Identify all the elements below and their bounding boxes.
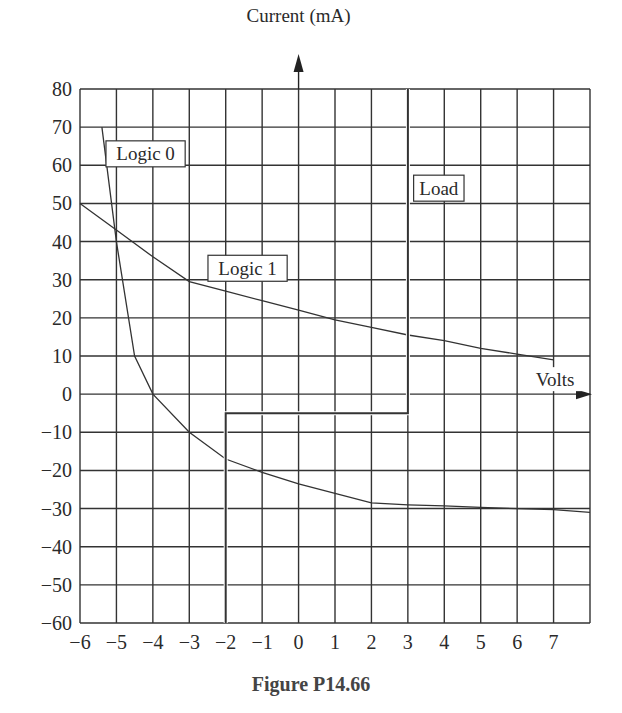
series-logic-1 bbox=[80, 203, 554, 359]
y-tick-label: 0 bbox=[62, 383, 72, 405]
x-tick-label: −6 bbox=[69, 631, 90, 653]
grid bbox=[80, 89, 590, 623]
y-tick-label: 20 bbox=[52, 307, 72, 329]
x-tick-label: 6 bbox=[512, 631, 522, 653]
x-tick-label: 5 bbox=[476, 631, 486, 653]
x-tick-label: −5 bbox=[106, 631, 127, 653]
x-tick-label: 4 bbox=[439, 631, 449, 653]
y-tick-label: −50 bbox=[41, 574, 72, 596]
y-tick-label: 40 bbox=[52, 231, 72, 253]
x-tick-label: 3 bbox=[403, 631, 413, 653]
y-tick-label: −40 bbox=[41, 536, 72, 558]
series-label-load: Load bbox=[419, 178, 459, 199]
x-tick-label: −1 bbox=[252, 631, 273, 653]
chart: Current (mA)Volts Logic 0Logic 1Load 807… bbox=[0, 0, 622, 670]
x-tick-label: 7 bbox=[549, 631, 559, 653]
y-tick-label: 80 bbox=[52, 78, 72, 100]
x-tick-label: 0 bbox=[294, 631, 304, 653]
y-tick-label: 30 bbox=[52, 269, 72, 291]
x-tick-label: −3 bbox=[179, 631, 200, 653]
x-axis-title: Volts bbox=[536, 369, 575, 390]
x-tick-label: −2 bbox=[215, 631, 236, 653]
y-tick-label: 50 bbox=[52, 192, 72, 214]
y-tick-label: 10 bbox=[52, 345, 72, 367]
figure-caption: Figure P14.66 bbox=[0, 673, 622, 696]
x-tick-label: 1 bbox=[330, 631, 340, 653]
y-axis-title: Current (mA) bbox=[247, 5, 351, 27]
y-tick-label: −20 bbox=[41, 459, 72, 481]
y-axis-arrow-icon bbox=[294, 54, 304, 72]
y-tick-label: −10 bbox=[41, 421, 72, 443]
y-tick-label: −60 bbox=[41, 612, 72, 634]
x-tick-label: −4 bbox=[142, 631, 163, 653]
x-tick-label: 2 bbox=[366, 631, 376, 653]
series-labels: Logic 0Logic 1Load bbox=[106, 141, 464, 281]
y-tick-label: 70 bbox=[52, 116, 72, 138]
y-tick-label: 60 bbox=[52, 154, 72, 176]
y-tick-label: −30 bbox=[41, 498, 72, 520]
series-label-logic-0: Logic 0 bbox=[116, 143, 175, 164]
series-label-logic-1: Logic 1 bbox=[218, 258, 277, 279]
